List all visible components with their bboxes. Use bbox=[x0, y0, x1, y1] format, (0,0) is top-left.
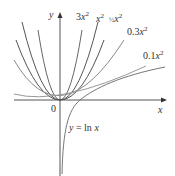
graph-figure: y x 0 3x2 x2 ½x2 0.3x2 0.1x2 y = ln x bbox=[0, 0, 175, 176]
label-x2: x2 bbox=[95, 12, 104, 24]
label-0.3x2: 0.3x2 bbox=[127, 25, 148, 37]
y-axis-arrow-icon bbox=[58, 12, 63, 18]
label-3x2: 3x2 bbox=[76, 10, 89, 22]
label-half-x2: ½x2 bbox=[109, 12, 123, 24]
y-axis-label: y bbox=[48, 9, 54, 20]
label-0.1x2: 0.1x2 bbox=[143, 49, 164, 61]
curve-0.1x2 bbox=[14, 66, 146, 97]
x-axis-label: x bbox=[157, 104, 163, 115]
x-axis-arrow-icon bbox=[161, 98, 167, 103]
origin-label: 0 bbox=[51, 103, 56, 114]
label-ln-x: y = ln x bbox=[68, 122, 99, 133]
